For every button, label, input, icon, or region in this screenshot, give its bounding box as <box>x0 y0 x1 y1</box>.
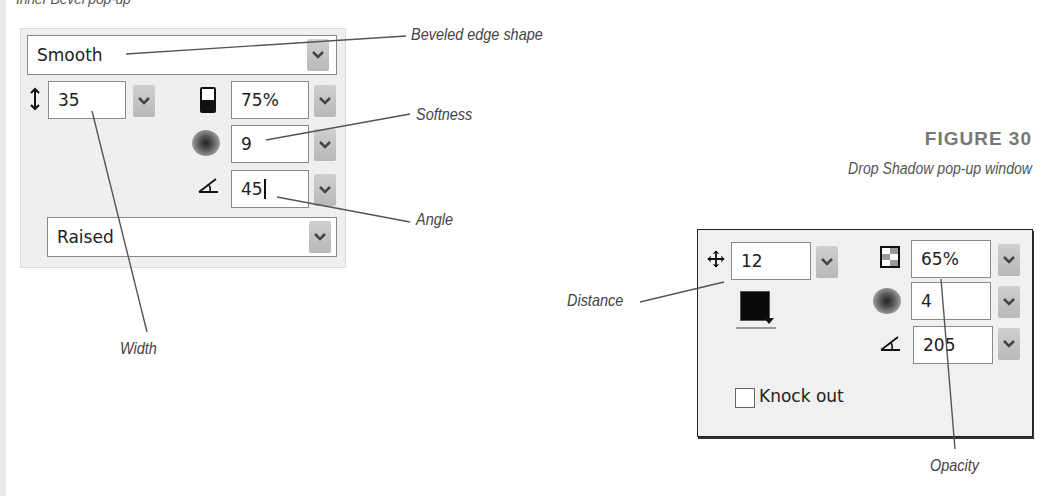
chevron-down-icon <box>1002 297 1016 307</box>
angle-dropdown-button[interactable] <box>314 174 336 206</box>
chevron-down-icon <box>311 50 325 60</box>
angle-icon <box>879 332 903 354</box>
move-icon <box>704 247 728 271</box>
knockout-checkbox[interactable] <box>735 388 755 408</box>
softness-input[interactable]: 9 <box>231 125 309 163</box>
softness-icon <box>872 286 902 316</box>
contrast-dropdown-button[interactable] <box>314 85 336 117</box>
chevron-down-icon <box>318 185 332 195</box>
chevron-down-icon <box>318 96 332 106</box>
shadow-softness-value: 4 <box>921 291 932 311</box>
page-edge <box>0 0 6 496</box>
opacity-dropdown-button[interactable] <box>998 244 1020 276</box>
swatch-underline <box>736 327 776 329</box>
width-value: 35 <box>58 90 80 110</box>
edge-shape-dropdown-button[interactable] <box>307 39 329 71</box>
width-dropdown-button[interactable] <box>133 85 155 117</box>
contrast-icon <box>197 85 219 115</box>
figure-label: FIGURE 30 <box>925 128 1032 150</box>
angle-input[interactable]: 45 <box>231 170 309 208</box>
opacity-value: 65% <box>921 249 959 269</box>
distance-value: 12 <box>741 251 763 271</box>
shadow-angle-value: 205 <box>923 335 955 355</box>
softness-value: 9 <box>241 134 252 154</box>
shadow-angle-dropdown-button[interactable] <box>998 328 1020 360</box>
opacity-icon <box>878 244 902 270</box>
callout-angle: Angle <box>416 210 453 230</box>
edge-shape-select[interactable]: Smooth <box>27 35 337 75</box>
distance-input[interactable]: 12 <box>731 242 811 280</box>
shadow-angle-input[interactable]: 205 <box>913 326 993 364</box>
shadow-color-swatch[interactable] <box>736 287 776 327</box>
angle-icon <box>197 174 221 196</box>
width-input[interactable]: 35 <box>48 81 126 119</box>
inner-bevel-panel: Smooth 35 75% 9 45 Raised <box>20 28 346 268</box>
callout-width: Width <box>120 339 157 359</box>
chevron-down-icon <box>318 140 332 150</box>
opacity-input[interactable]: 65% <box>911 240 991 278</box>
top-caption: Inner Bevel pop-up <box>16 0 131 7</box>
angle-value: 45 <box>241 179 263 199</box>
callout-distance: Distance <box>567 291 623 311</box>
chevron-down-icon <box>313 232 327 242</box>
drop-shadow-panel: 12 65% 4 205 Knock out <box>697 229 1033 437</box>
vertical-resize-icon <box>25 86 45 112</box>
chevron-down-icon <box>1002 339 1016 349</box>
softness-icon <box>191 128 221 158</box>
text-cursor <box>264 179 266 199</box>
chevron-down-icon <box>1002 255 1016 265</box>
contrast-input[interactable]: 75% <box>231 81 309 119</box>
callout-softness: Softness <box>416 105 472 125</box>
callout-opacity: Opacity <box>930 456 979 476</box>
button-preset-dropdown-button[interactable] <box>309 221 331 253</box>
button-preset-value: Raised <box>57 227 114 247</box>
chevron-down-icon <box>820 257 834 267</box>
figure-caption: Drop Shadow pop-up window <box>848 160 1032 178</box>
distance-dropdown-button[interactable] <box>816 246 838 278</box>
shadow-softness-dropdown-button[interactable] <box>998 286 1020 318</box>
shadow-softness-input[interactable]: 4 <box>911 282 991 320</box>
color-fill <box>740 291 770 321</box>
edge-shape-value: Smooth <box>37 45 103 65</box>
knockout-label: Knock out <box>759 386 844 406</box>
callout-beveled-edge-shape: Beveled edge shape <box>411 25 543 45</box>
color-dropdown-arrow-icon <box>764 318 774 324</box>
contrast-value: 75% <box>241 90 279 110</box>
button-preset-select[interactable]: Raised <box>47 217 337 257</box>
chevron-down-icon <box>137 96 151 106</box>
softness-dropdown-button[interactable] <box>314 129 336 161</box>
